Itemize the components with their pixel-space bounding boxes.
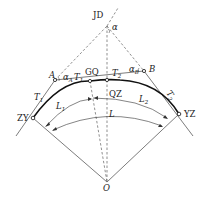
label-L2: L2 [138, 94, 149, 105]
arrowhead [88, 97, 92, 101]
dashed-line-JD-B [107, 26, 144, 71]
arc-L [53, 116, 162, 130]
label-B: B [148, 64, 155, 74]
angle-alpha-arc [108, 29, 110, 33]
angle-alphaA-arc [58, 77, 59, 81]
point-B [142, 69, 145, 72]
arrowhead [45, 122, 50, 127]
label-alphaA: αA [63, 72, 73, 83]
point-QZ [105, 78, 108, 81]
label-T2-mid: T2 [112, 68, 122, 79]
arrowhead [158, 124, 163, 127]
point-GQ [88, 79, 91, 82]
radius-line-right [107, 114, 179, 182]
tangent-line-left [16, 80, 55, 136]
label-T2-right: T2 [164, 88, 179, 102]
tangent-line-right [144, 71, 193, 136]
label-L1: L1 [55, 101, 65, 112]
label-YZ: YZ [183, 109, 196, 119]
arrowhead [94, 96, 98, 100]
label-A: A [48, 70, 55, 80]
radius-line-left [33, 118, 107, 182]
label-L: L [108, 109, 115, 119]
circular-curve [33, 80, 179, 118]
arc-L2 [93, 98, 167, 118]
label-O: O [103, 183, 110, 193]
point-ZY [31, 116, 35, 120]
label-alpha: α [112, 22, 118, 32]
curve-diagram: JD α A B GQ QZ ZY YZ O αA αB T1 T2 T1 T2… [0, 0, 206, 204]
label-alphaB: αB [129, 64, 139, 75]
arc-L1 [46, 99, 91, 126]
label-ZY: ZY [17, 113, 29, 123]
arrowhead [52, 127, 57, 131]
label-JD: JD [92, 10, 103, 20]
label-T1-mid: T1 [74, 72, 83, 83]
point-YZ [177, 112, 181, 116]
label-GQ: GQ [85, 67, 99, 77]
label-QZ: QZ [109, 89, 122, 99]
label-T1-left: T1 [34, 92, 43, 103]
dashed-line-GQ-O [90, 81, 107, 182]
